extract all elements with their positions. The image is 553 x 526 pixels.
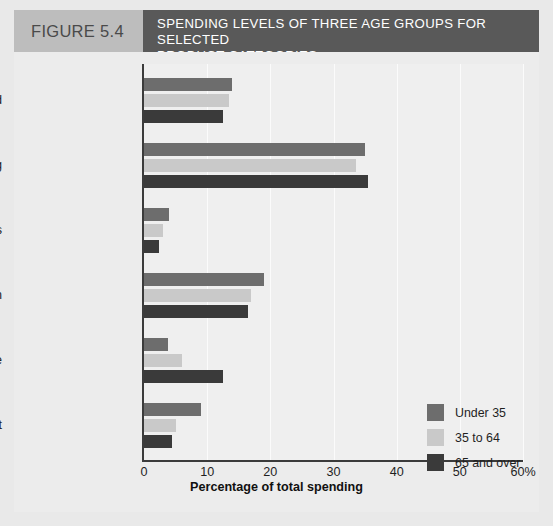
figure-number-label: FIGURE 5.4 [14, 10, 143, 52]
x-tick-label: 40 [390, 465, 404, 479]
bar [144, 224, 163, 237]
bar [144, 305, 248, 318]
figure-title-line-1: SPENDING LEVELS OF THREE AGE GROUPS FOR … [157, 16, 539, 48]
legend-swatch [427, 454, 444, 471]
y-axis-line [142, 64, 144, 462]
category-label: Transportation [0, 288, 2, 302]
figure-container: FIGURE 5.4 SPENDING LEVELS OF THREE AGE … [0, 0, 553, 526]
bar-group [144, 78, 523, 123]
legend-label: 35 to 64 [455, 431, 500, 445]
legend-label: 65 and over [455, 456, 520, 470]
bar-group [144, 143, 523, 188]
bar [144, 403, 201, 416]
legend-item[interactable]: Under 35 [427, 400, 537, 425]
legend-item[interactable]: 35 to 64 [427, 425, 537, 450]
bar-group [144, 338, 523, 383]
figure-header: FIGURE 5.4 SPENDING LEVELS OF THREE AGE … [14, 10, 539, 52]
bar [144, 354, 182, 367]
chart-panel: FoodHousingApparel and ServicesTransport… [14, 52, 539, 512]
bar [144, 338, 168, 351]
legend-swatch [427, 429, 444, 446]
chart-legend: Under 3535 to 6465 and over [427, 400, 537, 475]
category-label: Entertainment [0, 418, 2, 432]
category-label: Apparel and Services [0, 223, 2, 237]
bar [144, 370, 223, 383]
bar [144, 289, 251, 302]
bar-group [144, 273, 523, 318]
category-label: Housing [0, 158, 2, 172]
x-tick-label: 20 [263, 465, 277, 479]
bar [144, 435, 172, 448]
bar-group [144, 208, 523, 253]
bar [144, 159, 356, 172]
bar [144, 419, 176, 432]
category-label: Food [0, 93, 2, 107]
bar [144, 240, 159, 253]
x-tick-label: 30 [326, 465, 340, 479]
legend-label: Under 35 [455, 406, 506, 420]
x-axis-title: Percentage of total spending [14, 480, 539, 494]
bar [144, 143, 365, 156]
x-tick-label: 0 [140, 465, 147, 479]
bar [144, 273, 264, 286]
x-tick-label: 10 [200, 465, 214, 479]
category-label: Health Care [0, 353, 2, 367]
legend-item[interactable]: 65 and over [427, 450, 537, 475]
bar [144, 110, 223, 123]
bar [144, 208, 169, 221]
bar [144, 175, 368, 188]
bar [144, 94, 229, 107]
figure-title: SPENDING LEVELS OF THREE AGE GROUPS FOR … [143, 10, 539, 52]
legend-swatch [427, 404, 444, 421]
bar [144, 78, 232, 91]
